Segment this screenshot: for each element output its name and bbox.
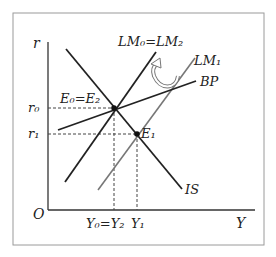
y-axis-label: r — [33, 35, 41, 51]
lm1-curve — [98, 58, 195, 190]
is-curve — [66, 49, 182, 189]
origin-label: O — [33, 206, 45, 222]
shift-arrow-icon — [151, 58, 178, 87]
x-axis-label: Y — [236, 215, 247, 231]
y1-label: Y₁ — [131, 216, 145, 231]
bp-label: BP — [199, 74, 219, 89]
is-label: IS — [184, 182, 199, 197]
e0-point — [111, 105, 117, 111]
r0-label: r₀ — [28, 100, 40, 115]
lm0-label: LM₀=LM₂ — [117, 34, 183, 49]
e1-label: E₁ — [140, 126, 156, 141]
is-lm-bp-diagram: r Y O r₀ r₁ Y₀=Y₂ Y₁ E₀=E₂ E₁ LM₀=LM₂ LM… — [0, 0, 276, 257]
lm1-label: LM₁ — [193, 53, 221, 68]
lm0-curve — [65, 52, 156, 182]
r1-label: r₁ — [28, 126, 39, 141]
e1-point — [134, 131, 140, 137]
e0-e2-label: E₀=E₂ — [59, 91, 100, 106]
y0-y2-label: Y₀=Y₂ — [86, 216, 124, 231]
